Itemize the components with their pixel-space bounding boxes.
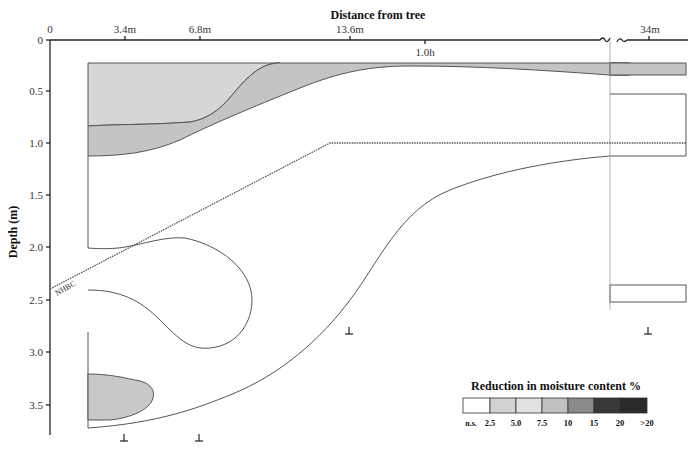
x-secondary-tick-1h: 1.0h: [415, 46, 435, 58]
region-34m-top-cap: [610, 63, 686, 75]
region-loop: [88, 238, 252, 349]
x-axis-title: Distance from tree: [331, 8, 427, 22]
borehole-marker-3: [345, 327, 353, 334]
legend-label-15: 15: [590, 418, 599, 428]
borehole-marker-4: [644, 327, 652, 334]
y-axis-title: Depth (m): [6, 206, 20, 258]
contour-regions: [88, 40, 686, 428]
borehole-marker-2: [195, 434, 203, 441]
region-ns-upper: [88, 156, 125, 249]
region-34m-deep: [610, 285, 686, 302]
x-tick-3-4m: 3.4m: [114, 23, 137, 35]
y-tick-2-5: 2.5: [29, 294, 43, 306]
region-34m-mid: [610, 94, 686, 156]
y-tick-0-5: 0.5: [29, 85, 43, 97]
y-tick-1-0: 1.0: [29, 137, 43, 149]
legend-swatch-15: [594, 398, 620, 413]
legend-swatch-20: [620, 398, 647, 413]
region-bottom-pocket: [88, 374, 154, 420]
legend-swatch-2-5: [490, 398, 516, 413]
x-tick-0: 0: [47, 23, 53, 35]
y-tick-0: 0: [38, 34, 44, 46]
legend-label-gt20: >20: [640, 418, 653, 428]
x-axis: [50, 36, 688, 44]
legend-swatch-7-5: [542, 398, 568, 413]
y-tick-3-0: 3.0: [29, 346, 43, 358]
y-tick-3-5: 3.5: [29, 399, 43, 411]
x-tick-34m: 34m: [640, 23, 660, 35]
legend-label-20: 20: [616, 418, 625, 428]
x-tick-6-8m: 6.8m: [189, 23, 212, 35]
legend-swatch-5-0: [516, 398, 542, 413]
y-tick-1-5: 1.5: [29, 189, 43, 201]
legend-label-2-5: 2.5: [485, 418, 496, 428]
legend-swatch-10: [568, 398, 594, 413]
legend-label-5-0: 5.0: [511, 418, 522, 428]
legend: Reduction in moisture content % n.s. 2.5…: [463, 379, 654, 428]
legend-swatch-ns: [463, 398, 490, 413]
y-tick-2-0: 2.0: [29, 241, 43, 253]
chart-canvas: Distance from tree 0 3.4m 6.8m 13.6m 34m…: [0, 0, 696, 456]
x-tick-13-6m: 13.6m: [336, 23, 364, 35]
legend-label-7-5: 7.5: [537, 418, 548, 428]
legend-title: Reduction in moisture content %: [471, 379, 641, 393]
y-axis: [46, 40, 50, 435]
legend-label-10: 10: [564, 418, 573, 428]
nhbc-label: NHBC: [54, 279, 78, 298]
borehole-marker-1: [120, 434, 128, 441]
legend-label-ns: n.s.: [465, 419, 477, 428]
